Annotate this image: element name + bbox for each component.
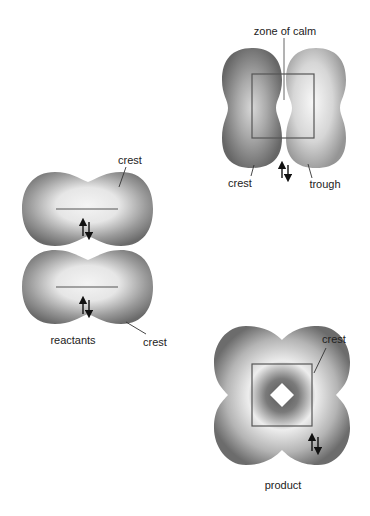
reactant-top-crest-label: crest <box>118 154 142 166</box>
trough-lobe-vertical <box>286 48 346 168</box>
transition-panel: zone of calm crest trough <box>222 25 346 190</box>
reactant-bottom-crest-label: crest <box>143 336 167 348</box>
reactants-panel: crest crest reactants <box>22 154 167 348</box>
reactants-caption: reactants <box>50 334 96 346</box>
product-crest-label: crest <box>322 333 346 345</box>
transition-crest-label: crest <box>228 177 252 189</box>
bottom-crest-leader <box>126 322 146 334</box>
diagram-canvas: zone of calm crest trough crest crest re… <box>0 0 370 516</box>
product-caption: product <box>265 479 302 491</box>
spin-arrows-icon <box>282 165 288 178</box>
trough-label: trough <box>309 178 340 190</box>
product-panel: crest product <box>214 326 350 491</box>
zone-of-calm-label: zone of calm <box>254 25 316 37</box>
